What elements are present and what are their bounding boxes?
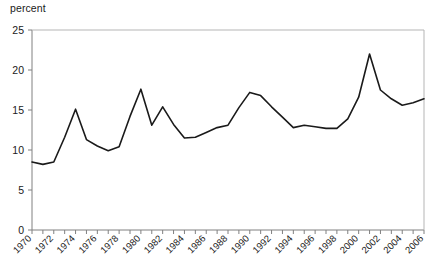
svg-text:2004: 2004: [381, 233, 404, 256]
line-chart-plot: 0510152025 19701972197419761978198019821…: [0, 0, 437, 268]
svg-text:15: 15: [12, 104, 24, 116]
svg-text:2002: 2002: [359, 233, 382, 256]
svg-text:1972: 1972: [32, 233, 55, 256]
svg-text:1994: 1994: [272, 233, 295, 256]
svg-text:5: 5: [18, 184, 24, 196]
data-series-line: [32, 54, 424, 164]
svg-text:20: 20: [12, 64, 24, 76]
svg-text:1974: 1974: [54, 233, 77, 256]
svg-text:1992: 1992: [250, 233, 273, 256]
svg-text:1988: 1988: [207, 233, 230, 256]
svg-text:1996: 1996: [294, 233, 317, 256]
svg-text:2006: 2006: [403, 233, 426, 256]
svg-text:2000: 2000: [337, 233, 360, 256]
svg-text:1976: 1976: [76, 233, 99, 256]
svg-text:25: 25: [12, 24, 24, 36]
svg-text:1980: 1980: [120, 233, 143, 256]
svg-text:1986: 1986: [185, 233, 208, 256]
svg-text:1998: 1998: [316, 233, 339, 256]
svg-text:1970: 1970: [11, 233, 34, 256]
svg-text:1990: 1990: [228, 233, 251, 256]
chart-container: percent 0510152025 197019721974197619781…: [0, 0, 437, 268]
svg-text:1982: 1982: [141, 233, 164, 256]
x-axis-ticks: 1970197219741976197819801982198419861988…: [11, 230, 426, 255]
y-axis-ticks: 0510152025: [12, 24, 32, 236]
svg-text:1984: 1984: [163, 233, 186, 256]
svg-text:10: 10: [12, 144, 24, 156]
plot-frame: [32, 30, 424, 230]
svg-text:1978: 1978: [98, 233, 121, 256]
